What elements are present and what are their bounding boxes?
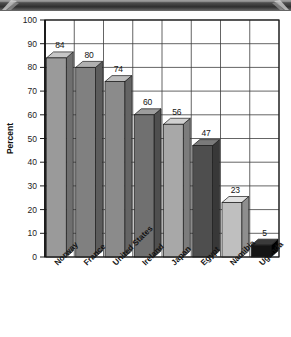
bar-front-face xyxy=(222,202,242,257)
bar-value-label: 23 xyxy=(231,185,241,195)
bar-side-face xyxy=(96,61,103,257)
bar-value-label: 47 xyxy=(201,128,211,138)
bar-egypt xyxy=(193,140,220,257)
y-axis-tick-labels: 0102030405060708090100 xyxy=(23,15,37,262)
bar-front-face xyxy=(76,67,96,257)
bar-united-states xyxy=(105,76,132,257)
bar-norway xyxy=(47,52,74,257)
y-tick-label: 70 xyxy=(28,86,38,96)
y-tick-label: 10 xyxy=(28,228,38,238)
chevron-ornament-icon xyxy=(267,0,289,11)
bar-chart: 0102030405060708090100 848074605647235 N… xyxy=(0,11,291,337)
bar-front-face xyxy=(164,124,184,257)
bar-side-face xyxy=(183,118,190,257)
bar-value-label: 74 xyxy=(114,64,124,74)
bar-front-face xyxy=(193,146,213,257)
bar-value-label: 60 xyxy=(143,97,153,107)
band-highlight xyxy=(0,0,291,2)
bar-value-label: 84 xyxy=(55,40,65,50)
bar-japan xyxy=(164,118,191,257)
y-tick-label: 90 xyxy=(28,39,38,49)
bar-side-face xyxy=(66,52,73,257)
bar-front-face xyxy=(105,82,125,257)
bar-front-face xyxy=(47,58,67,257)
bar-value-label: 56 xyxy=(172,107,182,117)
decorative-top-band xyxy=(0,0,291,11)
bar-side-face xyxy=(213,140,220,257)
bar-side-face xyxy=(154,109,161,257)
y-tick-label: 20 xyxy=(28,205,38,215)
y-axis-title-text: Percent xyxy=(5,123,15,154)
chart-canvas: 0102030405060708090100 848074605647235 N… xyxy=(0,11,291,337)
bar-value-label: 80 xyxy=(84,50,94,60)
y-tick-label: 100 xyxy=(23,15,37,25)
y-tick-label: 80 xyxy=(28,62,38,72)
bar-value-label: 5 xyxy=(262,228,267,238)
y-tick-label: 0 xyxy=(32,252,37,262)
y-axis-title: Percent xyxy=(5,123,15,154)
y-tick-label: 40 xyxy=(28,157,38,167)
chevron-ornament-icon xyxy=(2,0,24,11)
bar-france xyxy=(76,61,103,257)
bar-side-face xyxy=(125,76,132,257)
y-tick-label: 50 xyxy=(28,134,38,144)
y-tick-label: 30 xyxy=(28,181,38,191)
y-tick-label: 60 xyxy=(28,110,38,120)
